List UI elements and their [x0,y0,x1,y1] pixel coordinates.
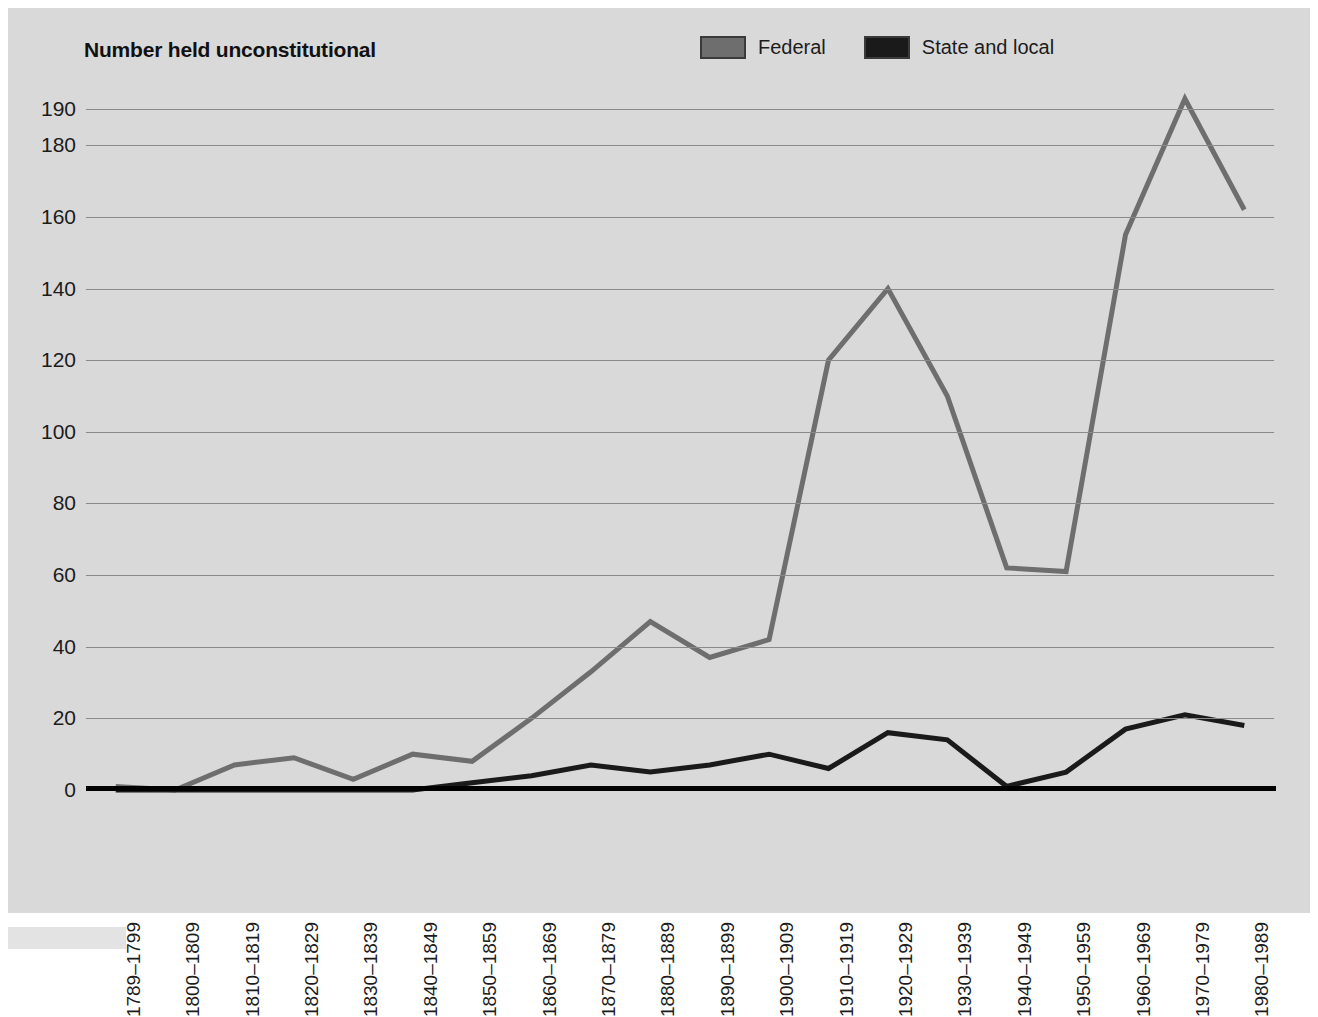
gridline [86,647,1274,648]
x-tick-label: 1970–1979 [1192,922,1214,1017]
x-tick-label: 1910–1919 [836,922,858,1017]
y-tick-label: 20 [16,706,76,730]
y-tick-label: 100 [16,420,76,444]
legend-swatch-icon [700,36,746,59]
x-tick-label: 1920–1929 [895,922,917,1017]
y-tick-label: 160 [16,205,76,229]
x-tick-label: 1980–1989 [1251,922,1273,1017]
gridline [86,289,1274,290]
x-axis: 1789–17991800–18091810–18191820–18291830… [86,800,1274,930]
x-tick-label: 1800–1809 [182,922,204,1017]
x-tick-label: 1860–1869 [539,922,561,1017]
y-tick-label: 120 [16,348,76,372]
x-tick-label: 1960–1969 [1133,922,1155,1017]
x-tick-label: 1810–1819 [242,922,264,1017]
x-tick-label: 1870–1879 [598,922,620,1017]
series-line-federal [116,99,1245,790]
gridline [86,360,1274,361]
y-tick-label: 140 [16,277,76,301]
gridline [86,217,1274,218]
x-tick-label: 1850–1859 [479,922,501,1017]
gridline [86,718,1274,719]
x-tick-label: 1930–1939 [954,922,976,1017]
y-tick-label: 60 [16,563,76,587]
y-tick-label: 40 [16,635,76,659]
y-tick-label: 0 [16,778,76,802]
plot-area [86,88,1274,790]
gridline [86,109,1274,110]
x-axis-baseline [86,786,1276,791]
y-axis: 020406080100120140160180190 [14,88,76,790]
chart-legend: Federal State and local [700,36,1054,59]
series-layer [86,88,1274,790]
legend-label: Federal [758,36,826,59]
x-tick-label: 1950–1959 [1073,922,1095,1017]
x-tick-label: 1789–1799 [123,922,145,1017]
legend-swatch-icon [864,36,910,59]
x-tick-label: 1940–1949 [1014,922,1036,1017]
legend-item-state-and-local[interactable]: State and local [864,36,1054,59]
y-tick-label: 80 [16,491,76,515]
page-title: Number held unconstitutional [84,38,376,62]
legend-label: State and local [922,36,1054,59]
x-tick-label: 1900–1909 [776,922,798,1017]
gridline [86,503,1274,504]
x-tick-label: 1890–1899 [717,922,739,1017]
x-tick-label: 1880–1889 [657,922,679,1017]
gridline [86,432,1274,433]
gridline [86,145,1274,146]
page-artifact-bar [8,927,126,949]
gridline [86,575,1274,576]
y-tick-label: 180 [16,133,76,157]
x-tick-label: 1830–1839 [360,922,382,1017]
x-tick-label: 1820–1829 [301,922,323,1017]
y-tick-label: 190 [16,97,76,121]
legend-item-federal[interactable]: Federal [700,36,826,59]
x-tick-label: 1840–1849 [420,922,442,1017]
series-line-state-and-local [116,715,1245,790]
